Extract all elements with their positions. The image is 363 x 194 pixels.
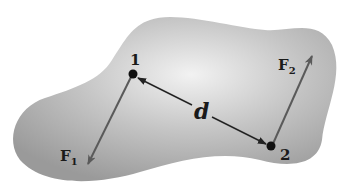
point-1-label: 1 xyxy=(130,51,140,69)
point-2-dot xyxy=(267,142,276,151)
point-1-dot xyxy=(129,70,138,79)
point-2-label: 2 xyxy=(280,146,290,164)
couple-diagram: 1 2 d F1 F2 xyxy=(0,0,363,194)
distance-label: d xyxy=(194,98,209,124)
